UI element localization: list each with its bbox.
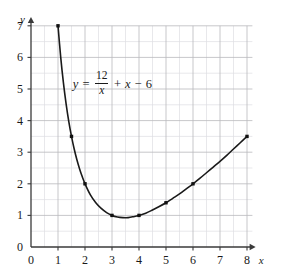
plot-area [0, 0, 293, 280]
x-tick-label: 4 [132, 254, 146, 266]
x-tick-label: 7 [213, 254, 227, 266]
x-tick-label: 0 [24, 254, 38, 266]
y-tick-label: 2 [9, 178, 23, 190]
x-axis-label: x [259, 255, 264, 266]
equation-plus: + [114, 78, 121, 91]
fraction-numerator: 12 [95, 70, 109, 83]
x-tick-label: 5 [159, 254, 173, 266]
y-tick-label: 5 [9, 83, 23, 95]
figure-graph-of-rational-function: y x y = 12 x + x − 6 01234567 012345678 [0, 0, 293, 280]
equation-minus: − [135, 78, 142, 91]
y-tick-label: 1 [9, 209, 23, 221]
equation-x-term: x [125, 78, 131, 91]
equation-constant: 6 [146, 78, 152, 91]
x-tick-label: 8 [240, 254, 254, 266]
equation-fraction: 12 x [95, 70, 109, 96]
y-tick-label: 4 [9, 115, 23, 127]
fraction-denominator: x [98, 84, 105, 97]
x-tick-label: 1 [51, 254, 65, 266]
y-tick-label: 0 [9, 241, 23, 253]
equation-lhs: y [73, 78, 79, 91]
equation-annotation: y = 12 x + x − 6 [73, 71, 152, 97]
x-tick-label: 6 [186, 254, 200, 266]
y-tick-label: 7 [9, 20, 23, 32]
x-tick-label: 3 [105, 254, 119, 266]
equation-equals: = [82, 78, 89, 91]
y-tick-label: 6 [9, 51, 23, 63]
y-tick-label: 3 [9, 146, 23, 158]
x-tick-label: 2 [78, 254, 92, 266]
